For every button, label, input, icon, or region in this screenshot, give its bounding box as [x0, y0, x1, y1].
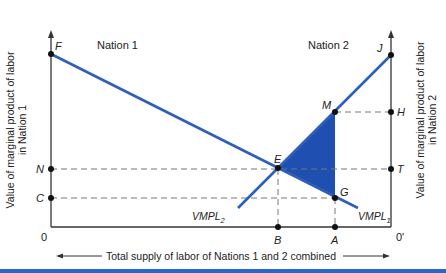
label-g: G	[340, 186, 349, 198]
point-h	[388, 109, 394, 115]
nation1-label: Nation 1	[97, 39, 138, 51]
point-g	[332, 195, 338, 201]
point-b	[275, 224, 281, 230]
label-f: F	[55, 40, 63, 52]
point-e	[275, 165, 281, 171]
point-f	[48, 51, 54, 57]
svg-text:Value of marginal product of l: Value of marginal product of labor	[4, 51, 16, 208]
point-m	[332, 109, 338, 115]
vmpl2-label: VMPL2	[192, 210, 226, 225]
svg-text:in Nation 2: in Nation 2	[426, 95, 438, 145]
label-b: B	[274, 234, 281, 246]
point-t	[388, 166, 394, 172]
dashed-guides	[51, 112, 391, 227]
point-j	[388, 52, 394, 58]
vmpl1-label: VMPL1	[358, 210, 391, 225]
vmpl1-curve	[51, 54, 358, 208]
label-t: T	[397, 163, 405, 175]
origin-right: 0'	[396, 231, 404, 243]
x-axis-title: Total supply of labor of Nations 1 and 2…	[106, 250, 336, 262]
svg-text:Value of marginal product of l: Value of marginal product of labor	[414, 41, 426, 198]
point-n	[48, 166, 54, 172]
label-j: J	[376, 42, 383, 54]
left-arrow-icon	[56, 254, 63, 259]
right-arrow-icon	[383, 254, 390, 259]
labor-migration-diagram: F J M H E N T C G B A 0 0' VMPL2 VMPL1 N…	[0, 0, 446, 273]
left-axis-title: Value of marginal product of labor in Na…	[4, 51, 28, 208]
right-axis-title: Value of marginal product of labor in Na…	[414, 41, 438, 198]
label-m: M	[322, 99, 332, 111]
welfare-gain-area	[278, 112, 335, 198]
nation2-label: Nation 2	[308, 39, 349, 51]
label-c: C	[36, 192, 44, 204]
right-axis-arrow-icon	[388, 30, 394, 38]
point-c	[48, 195, 54, 201]
label-e: E	[274, 153, 282, 165]
origin-left: 0	[41, 231, 47, 243]
bottom-accent-bar	[0, 269, 446, 273]
svg-text:in Nation 1: in Nation 1	[16, 105, 28, 155]
label-a: A	[330, 234, 338, 246]
label-n: N	[36, 163, 44, 175]
point-a	[332, 224, 338, 230]
label-h: H	[397, 106, 405, 118]
left-axis-arrow-icon	[48, 30, 54, 38]
